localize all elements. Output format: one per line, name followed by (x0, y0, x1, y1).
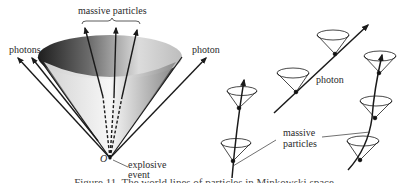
label-massive-particles: massive particles (78, 6, 147, 16)
label-massive: massive (283, 128, 315, 138)
label-photon-left: photon (192, 45, 220, 55)
figure-caption: Figure 11. The world lines of particles … (0, 177, 408, 183)
label-origin: O (100, 154, 107, 164)
light-cone (38, 35, 182, 158)
origin-point (108, 156, 111, 159)
world-line-right (347, 51, 396, 170)
massive-leader-left (233, 140, 276, 166)
diagram-canvas (0, 0, 408, 183)
explosive-event-leader (113, 160, 128, 167)
label-photons: photons (9, 45, 41, 55)
figure-caption-text: Figure 11. The world lines of particles … (0, 177, 408, 183)
label-particles: particles (283, 139, 317, 149)
label-photon-right: photon (316, 75, 344, 85)
photon-world-line (274, 25, 368, 113)
brace (82, 18, 140, 24)
world-line-left (221, 80, 257, 178)
